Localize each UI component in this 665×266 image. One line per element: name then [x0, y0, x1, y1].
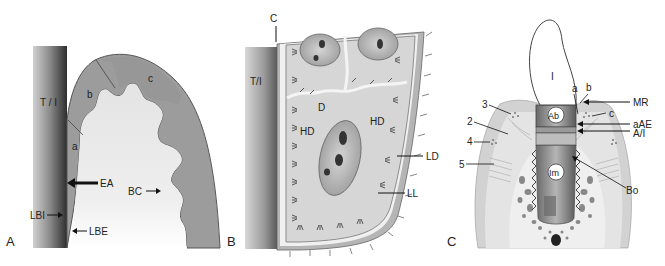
- label-2: 2: [467, 116, 473, 127]
- panel-label-b: B: [227, 234, 236, 249]
- label-bc: BC: [128, 186, 142, 197]
- nucleolus: [339, 131, 347, 145]
- label-b-c: b: [586, 82, 592, 93]
- label-ea: EA: [100, 178, 114, 189]
- dental-implant-tissue-figure: T / I a b c EA BC LBI LBE A: [0, 0, 665, 266]
- abutment-collar: [536, 127, 576, 133]
- apical-dark-spot: [551, 234, 561, 246]
- label-c-c: c: [609, 108, 614, 119]
- label-hd-left: HD: [300, 126, 314, 137]
- implant-neck: [536, 133, 576, 145]
- label-im: Im: [549, 168, 559, 178]
- label-c-a: c: [148, 73, 153, 84]
- label-b-a: b: [87, 89, 93, 100]
- label-lbe: LBE: [89, 226, 108, 237]
- label-ab: Ab: [548, 111, 559, 121]
- label-d: D: [318, 102, 325, 113]
- label-lbi: LBI: [30, 210, 45, 221]
- panel-b: C T/I D HD HD LD LL B: [227, 13, 439, 257]
- label-c-b: C: [270, 13, 277, 24]
- label-ai: A/I: [633, 128, 645, 139]
- label-4: 4: [467, 136, 473, 147]
- label-3: 3: [482, 99, 488, 110]
- label-a-a: a: [72, 141, 78, 152]
- label-ti-a: T / I: [40, 97, 57, 108]
- label-ll: LL: [407, 188, 419, 199]
- implant-internal-screw: [544, 196, 556, 216]
- nucleolus: [324, 169, 330, 176]
- nucleus-top-left: [300, 34, 340, 66]
- panel-label-a: A: [6, 234, 15, 249]
- panel-c: I Ab Im a b MR c aAE A/I Bo 3 2 4 5 C: [447, 20, 652, 249]
- implant-crown: [530, 20, 577, 105]
- label-a-c: a: [572, 83, 578, 94]
- label-bo: Bo: [626, 185, 639, 196]
- label-i: I: [551, 71, 554, 82]
- nucleolus: [319, 40, 325, 48]
- label-hd-right: HD: [370, 116, 384, 127]
- nucleolus: [335, 154, 343, 166]
- label-ld: LD: [426, 151, 439, 162]
- label-mr: MR: [633, 97, 649, 108]
- nucleolus: [314, 55, 319, 61]
- panel-a: T / I a b c EA BC LBI LBE A: [6, 46, 220, 249]
- label-5: 5: [459, 159, 465, 170]
- panel-label-c: C: [447, 234, 456, 249]
- label-ti-b: T/I: [250, 76, 262, 87]
- nucleolus: [377, 39, 383, 49]
